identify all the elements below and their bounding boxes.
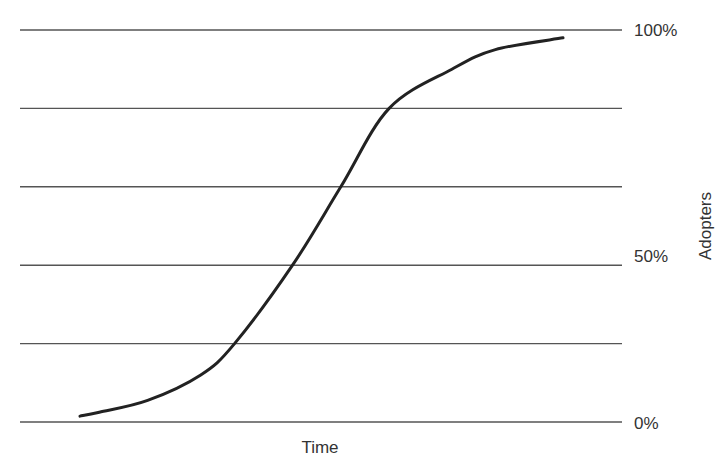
x-axis-label: Time: [301, 438, 338, 457]
y-axis-label: Adopters: [696, 192, 715, 260]
y-tick-0: 0%: [634, 414, 659, 433]
gridlines: [20, 30, 622, 422]
y-tick-100: 100%: [634, 21, 677, 40]
adoption-curve: [80, 38, 563, 416]
y-tick-50: 50%: [634, 247, 668, 266]
s-curve-chart: 100% 50% 0% Time Adopters: [0, 0, 728, 475]
